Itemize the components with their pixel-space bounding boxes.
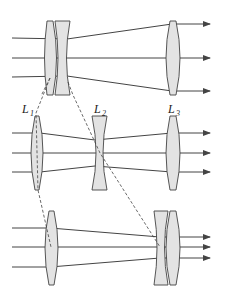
- bot-lens-L1: [45, 211, 58, 285]
- top-panel: [12, 21, 210, 95]
- top-ray-upper: [12, 24, 210, 39]
- bottom-panel: [12, 211, 210, 285]
- label-L3: L 3: [167, 102, 180, 118]
- top-lens-L3: [166, 21, 180, 95]
- svg-text:L: L: [93, 102, 101, 116]
- dashed-path-L2: [68, 82, 160, 247]
- svg-text:1: 1: [30, 109, 34, 118]
- svg-text:L: L: [21, 102, 29, 116]
- svg-text:L: L: [167, 102, 175, 116]
- bot-ray-lower: [12, 258, 210, 267]
- top-lens-L1: [45, 21, 57, 95]
- mid-lens-L3: [166, 116, 180, 190]
- svg-text:2: 2: [102, 109, 106, 118]
- middle-panel: L 1 L 2 L 3: [12, 102, 210, 190]
- bot-lens-L3: [166, 211, 180, 285]
- label-L2: L 2: [93, 102, 106, 118]
- zoom-lens-diagram: L 1 L 2 L 3: [0, 0, 225, 299]
- svg-text:3: 3: [175, 109, 180, 118]
- bot-ray-upper: [12, 228, 210, 237]
- top-ray-lower: [12, 76, 210, 91]
- label-L1: L 1: [21, 102, 34, 118]
